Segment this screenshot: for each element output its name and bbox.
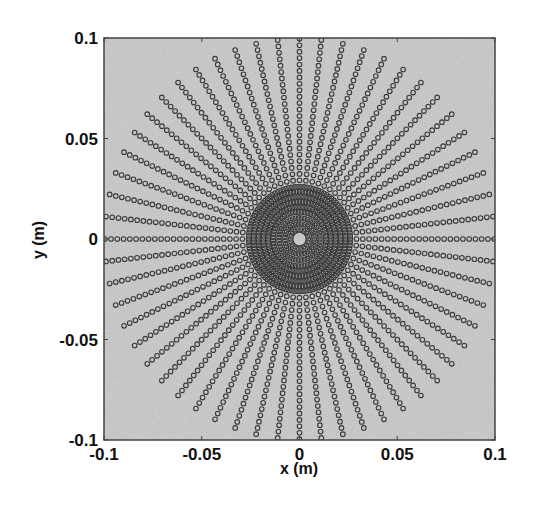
x-tick-label: -0.05 xyxy=(182,445,221,464)
y-axis-label: y (m) xyxy=(30,221,47,259)
y-tick-label: -0.1 xyxy=(69,431,98,450)
plot-area xyxy=(102,37,496,442)
x-axis-label: x (m) xyxy=(280,460,318,477)
y-tick-label: -0.05 xyxy=(59,331,98,350)
y-tick-label: 0.05 xyxy=(65,130,98,149)
y-tick-label: 0.1 xyxy=(74,29,98,48)
x-tick-label: 0.05 xyxy=(381,445,414,464)
plot-texture xyxy=(104,38,495,440)
y-tick-label: 0 xyxy=(89,230,98,249)
chart-figure: -0.1-0.0500.050.1 -0.1-0.0500.050.1 x (m… xyxy=(0,0,534,505)
x-tick-label: 0.1 xyxy=(483,445,507,464)
